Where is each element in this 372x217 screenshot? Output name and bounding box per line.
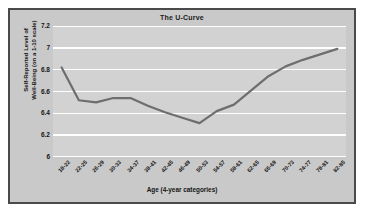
y-axis-title-line1: Self-Reported Level of — [22, 0, 30, 125]
plot-area — [53, 26, 346, 157]
y-tick-label: 6.2 — [10, 131, 50, 138]
chart-title: The U-Curve — [10, 14, 354, 21]
y-tick-label: 6 — [10, 153, 50, 160]
series-line — [53, 26, 346, 157]
chart-frame: The U-Curve 7.276.86.66.46.26 Self-Repor… — [8, 8, 356, 204]
y-axis-title-line2: Well-Being (on a 1-10 scale) — [30, 0, 38, 125]
y-axis-title: Self-Reported Level of Well-Being (on a … — [22, 0, 38, 125]
x-axis-title: Age (4-year categories) — [10, 186, 354, 193]
